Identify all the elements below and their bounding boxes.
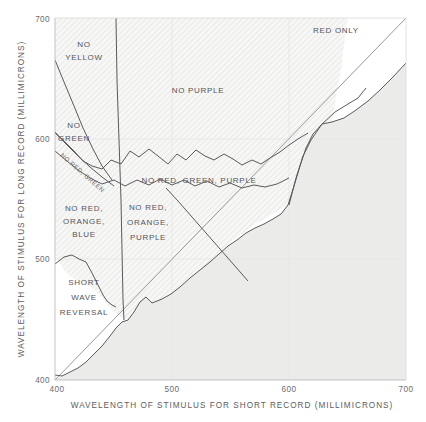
y-tick-600: 600 — [35, 135, 50, 144]
x-tick-500: 500 — [165, 385, 180, 394]
chart-figure: 700 600 500 400 400 500 600 700 WAVELENG… — [0, 0, 426, 422]
region-label-norop-line3: PURPLE — [130, 233, 166, 242]
x-axis-title: WAVELENGTH OF STIMULUS FOR SHORT RECORD … — [71, 401, 394, 410]
region-label-no-purple: NO PURPLE — [172, 86, 225, 95]
region-label-no-yellow-line1: NO — [77, 40, 90, 49]
region-label-no-yellow-line2: YELLOW — [65, 53, 103, 62]
chart-svg: 700 600 500 400 400 500 600 700 WAVELENG… — [0, 0, 426, 422]
region-label-norob-line3: BLUE — [72, 230, 96, 239]
x-tick-600: 600 — [282, 385, 297, 394]
y-tick-400: 400 — [35, 376, 50, 385]
y-tick-700: 700 — [35, 15, 50, 24]
region-label-no-green-line2: GREEN — [58, 134, 90, 143]
region-label-no-green-line1: NO — [67, 121, 80, 130]
y-axis-title: WAVELENGTH OF STIMULUS FOR LONG RECORD (… — [17, 41, 26, 357]
region-label-swr-line1: SHORT — [68, 278, 99, 287]
region-label-norop-line2: ORANGE, — [127, 218, 169, 227]
region-label-swr-line3: REVERSAL — [60, 308, 108, 317]
plot-area — [55, 18, 406, 380]
x-tick-700: 700 — [399, 385, 414, 394]
region-label-swr-line2: WAVE — [71, 293, 96, 302]
region-label-norob-line1: NO RED, — [65, 204, 103, 213]
region-label-red-only: RED ONLY — [313, 26, 359, 35]
y-tick-500: 500 — [35, 255, 50, 264]
x-tick-400: 400 — [50, 385, 65, 394]
region-label-norop-line1: NO RED, — [129, 203, 167, 212]
region-label-no-red-green-purple: NO RED, GREEN, PURPLE — [141, 176, 256, 185]
region-label-norob-line2: ORANGE, — [63, 217, 105, 226]
region-label-no-red-orange-purple: NO RED, ORANGE, PURPLE — [127, 203, 169, 242]
